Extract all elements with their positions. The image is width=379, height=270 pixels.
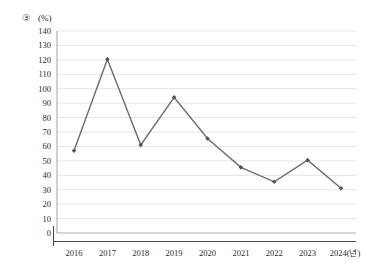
data-point-marker	[72, 148, 77, 153]
x-tick-label: 2023	[299, 248, 316, 258]
x-tick-label: 2018	[132, 248, 149, 258]
data-point-marker	[105, 57, 110, 62]
y-axis-tick-labels: 140 130 120 110 100 90 80 70 60 50 40 30…	[38, 26, 51, 238]
y-tick-label: 50	[43, 156, 52, 166]
x-tick-label: 2017	[99, 248, 116, 258]
y-tick-label: 0	[47, 228, 51, 238]
x-tick-label: 2022	[266, 248, 283, 258]
y-tick-label: 20	[43, 199, 52, 209]
y-tick-label: 120	[38, 55, 51, 65]
y-tick-label: 80	[43, 113, 52, 123]
y-tick-label: 90	[43, 98, 52, 108]
y-tick-label: 110	[39, 69, 51, 79]
y-axis-unit-label: (%)	[38, 14, 52, 23]
y-tick-label: 130	[38, 40, 51, 50]
chart-container: ③ (%) 140 130 120 110 100	[0, 0, 379, 270]
figure-number-label: ③	[22, 14, 30, 23]
y-tick-label: 140	[38, 26, 51, 36]
line-chart-svg: 140 130 120 110 100 90 80 70 60 50 40 30…	[0, 0, 379, 270]
x-tick-label: 2020	[199, 248, 216, 258]
y-tick-label: 40	[43, 170, 52, 180]
y-tick-label: 30	[43, 185, 52, 195]
y-tick-label: 60	[43, 141, 52, 151]
data-series-line	[74, 59, 341, 188]
x-tick-label: 2021	[232, 248, 249, 258]
x-tick-label: 2016	[66, 248, 83, 258]
y-tick-label: 10	[43, 214, 52, 224]
x-axis-tick-labels: 2016 2017 2018 2019 2020 2021 2022 2023 …	[66, 248, 361, 258]
data-point-markers	[72, 57, 344, 191]
x-tick-label: 2024(년)	[330, 248, 361, 258]
y-tick-label: 100	[38, 84, 51, 94]
y-gridlines	[57, 31, 356, 219]
y-tick-label: 70	[43, 127, 52, 137]
x-tick-label: 2019	[166, 248, 183, 258]
